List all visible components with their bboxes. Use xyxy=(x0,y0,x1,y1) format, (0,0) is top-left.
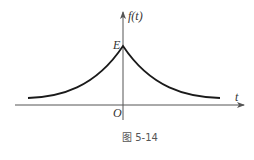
diagram-canvas: f(t) t O E 图 5-14 xyxy=(0,0,254,160)
origin-label: O xyxy=(113,106,122,120)
figure-caption: 图 5-14 xyxy=(122,132,158,143)
exponential-curve xyxy=(28,46,220,98)
y-axis-label: f(t) xyxy=(128,9,143,23)
peak-label: E xyxy=(112,38,121,52)
x-axis-label: t xyxy=(235,90,239,104)
